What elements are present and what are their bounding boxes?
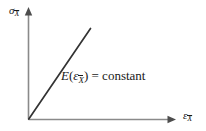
stress-strain-schematic-figure: σX εX E(εX) = constant (0, 0, 206, 131)
annotation-close-paren: ) (84, 68, 88, 83)
plot-canvas (0, 0, 206, 131)
y-axis-arrowhead (25, 7, 32, 16)
annotation-arg-subscript: X (78, 75, 84, 85)
y-axis-label: σX (9, 5, 19, 18)
annotation-prefix: E (61, 68, 69, 83)
y-axis-label-subscript: X (14, 9, 19, 18)
annotation-value: constant (102, 68, 145, 83)
x-axis-label-subscript: X (187, 114, 192, 123)
x-axis-label: εX (183, 110, 192, 123)
equation-annotation: E(εX) = constant (61, 69, 145, 85)
annotation-equals: = (92, 68, 99, 83)
x-axis-arrowhead (168, 116, 177, 123)
